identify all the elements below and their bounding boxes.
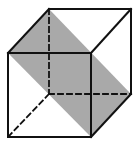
edge-back-top-right-to-front-top-right bbox=[91, 9, 131, 53]
cube-diagram bbox=[0, 0, 134, 147]
hidden-edge-back-bottom-left-to-front-bottom-left bbox=[8, 94, 49, 137]
